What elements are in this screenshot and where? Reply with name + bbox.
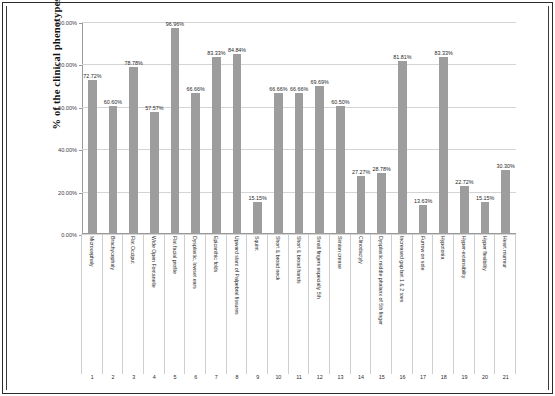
x-axis-index: 3 [123, 370, 144, 384]
y-tick-label: 100.00% [55, 20, 82, 26]
x-axis-label-cell: Short & broad neck [267, 234, 289, 374]
bar-slot: 66.66% [185, 22, 206, 234]
bar-value-label: 66.66% [269, 86, 287, 92]
bar-slot: 96.96% [165, 22, 186, 234]
bar-value-label: 60.60% [104, 99, 122, 105]
x-axis-label-grid: MicrocephalyBrachycephalyFlat OcciputWid… [82, 234, 516, 374]
bar-value-label: 78.78% [125, 60, 143, 66]
x-axis-index: 13 [330, 370, 351, 384]
x-axis-label: Hyper flexibility [482, 236, 488, 271]
y-tick-label: 60.00% [58, 105, 82, 111]
plot-area: 0.00%20.00%40.00%60.00%80.00%100.00% 72.… [82, 22, 516, 234]
bar-slot: 84.84% [227, 22, 248, 234]
bar[interactable]: 96.96% [171, 28, 180, 234]
bar-value-label: 57.57% [145, 105, 163, 111]
bar-slot: 83.33% [433, 22, 454, 234]
x-axis-label: Heart murmur [502, 236, 508, 268]
bar-value-label: 15.15% [476, 195, 494, 201]
x-axis-label: Flat Occiput [130, 236, 136, 264]
bar-slot: 13.63% [413, 22, 434, 234]
bar-value-label: 66.66% [290, 86, 308, 92]
x-axis-label: Furrow on sole [420, 236, 426, 270]
y-tick-label: 40.00% [58, 147, 82, 153]
bar-value-label: 60.50% [331, 99, 349, 105]
bar[interactable]: 60.60% [109, 106, 118, 234]
bar-value-label: 27.27% [352, 169, 370, 175]
bar[interactable]: 81.81% [398, 61, 407, 234]
bar[interactable]: 83.33% [212, 57, 221, 234]
x-axis-label: Epicanthic folds [213, 236, 219, 272]
bar[interactable]: 60.50% [336, 106, 345, 234]
bar-value-label: 28.78% [373, 166, 391, 172]
bar[interactable]: 57.57% [150, 112, 159, 234]
y-tick-label: 80.00% [58, 62, 82, 68]
x-axis-index-row: 123456789101112131415161718192021 [82, 370, 516, 384]
x-axis-index: 18 [433, 370, 454, 384]
bar[interactable]: 69.69% [315, 86, 324, 234]
x-axis-index: 8 [227, 370, 248, 384]
bar-slot: 66.66% [268, 22, 289, 234]
x-axis-label: Short & broad neck [275, 236, 281, 280]
x-axis-index: 9 [247, 370, 268, 384]
bar[interactable]: 84.84% [233, 54, 242, 234]
bar-slot: 57.57% [144, 22, 165, 234]
bar-value-label: 13.63% [414, 198, 432, 204]
x-axis-index: 21 [495, 370, 516, 384]
x-axis-index: 15 [371, 370, 392, 384]
x-axis-label-cell: Furrow on sole [412, 234, 434, 374]
bar-value-label: 72.72% [83, 73, 101, 79]
x-axis-label-cell: Flat Occiput [122, 234, 144, 374]
x-axis-index: 20 [475, 370, 496, 384]
x-axis-label-cell: Dysplastic middle phalanx of 5th finger [370, 234, 392, 374]
bar[interactable]: 15.15% [481, 202, 490, 234]
x-axis-index: 1 [82, 370, 103, 384]
bar[interactable]: 66.66% [274, 93, 283, 234]
bar-slot: 83.33% [206, 22, 227, 234]
bar[interactable]: 15.15% [253, 202, 262, 234]
bar-chart: % of the clinical phenotypes 0.00%20.00%… [20, 10, 536, 386]
bar-slot: 22.72% [454, 22, 475, 234]
y-tick-label: 20.00% [58, 190, 82, 196]
x-axis-index: 19 [454, 370, 475, 384]
x-axis-index: 14 [351, 370, 372, 384]
x-axis-index: 10 [268, 370, 289, 384]
bar[interactable]: 30.30% [501, 170, 510, 234]
bar[interactable]: 13.63% [419, 205, 428, 234]
x-axis-label-cell: Brachycephaly [102, 234, 124, 374]
bar[interactable]: 72.72% [88, 80, 97, 234]
x-axis-label: Wide Open Fontanelle [151, 236, 157, 288]
x-axis-label: Dysplastic, lowset ears [192, 236, 198, 289]
bar-slot: 72.72% [82, 22, 103, 234]
x-axis-label: Upward slant of Palpebral fissures [234, 236, 240, 315]
bar-value-label: 96.96% [166, 21, 184, 27]
x-axis-label: Brachycephaly [110, 236, 116, 270]
x-axis-label: Clinodactyly [358, 236, 364, 264]
x-axis-label-cell: Hyper-extensibility [453, 234, 475, 374]
bar-slot: 28.78% [371, 22, 392, 234]
x-axis-label: Microcephaly [89, 236, 95, 267]
x-axis-label-cell: Squint [246, 234, 268, 374]
x-axis-label-cell: Simian crease [329, 234, 351, 374]
x-axis-label-cell: Heart murmur [494, 234, 516, 374]
bar[interactable]: 66.66% [191, 93, 200, 234]
bar[interactable]: 78.78% [129, 67, 138, 234]
bar-value-label: 66.66% [187, 86, 205, 92]
x-axis-label-cell: Small fingers especially 5th [308, 234, 330, 374]
bar-series: 72.72%60.60%78.78%57.57%96.96%66.66%83.3… [82, 22, 516, 234]
x-axis-index: 6 [185, 370, 206, 384]
bar-slot: 78.78% [123, 22, 144, 234]
bar-value-label: 22.72% [455, 179, 473, 185]
bar-value-label: 84.84% [228, 47, 246, 53]
bar[interactable]: 83.33% [439, 57, 448, 234]
bar-value-label: 83.33% [435, 50, 453, 56]
x-axis-label: Short & broad hands [296, 236, 302, 284]
bar[interactable]: 27.27% [357, 176, 366, 234]
bar-slot: 15.15% [475, 22, 496, 234]
x-axis-label: Small fingers especially 5th [316, 236, 322, 299]
x-axis-label-cell: Hyper flexibility [474, 234, 496, 374]
x-axis-index: 7 [206, 370, 227, 384]
bar[interactable]: 22.72% [460, 186, 469, 234]
bar[interactable]: 66.66% [295, 93, 304, 234]
bar[interactable]: 28.78% [377, 173, 386, 234]
x-axis-label: Dysplastic middle phalanx of 5th finger [378, 236, 384, 325]
